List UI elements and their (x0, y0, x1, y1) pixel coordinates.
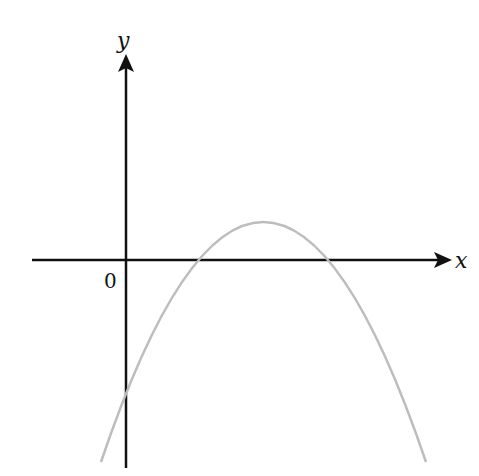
x-axis (32, 252, 452, 268)
graph-canvas: y x 0 (0, 0, 479, 476)
y-axis-label: y (116, 28, 130, 53)
x-axis-label: x (455, 248, 468, 273)
origin-label: 0 (104, 269, 117, 293)
parabola-curve (101, 222, 426, 462)
